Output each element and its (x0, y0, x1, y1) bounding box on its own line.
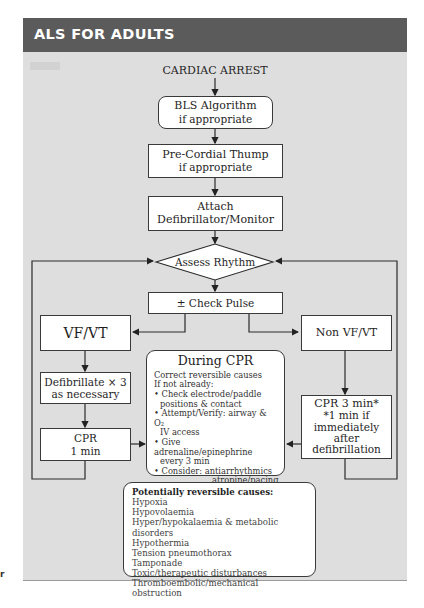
thump-sub: if appropriate (179, 161, 252, 173)
reversible-cause-item: Hypovolaemia (132, 507, 307, 517)
cpr1-line2: 1 min (70, 445, 100, 457)
reversible-cause-item: Hypoxia (132, 497, 307, 507)
reversible-cause-item: Hyper/hypokalaemia & metabolic disorders (132, 517, 307, 537)
start-label: CARDIAC ARREST (145, 64, 285, 77)
precordial-thump-box: Pre-Cordial Thump if appropriate (148, 144, 283, 178)
vf-vt-box: VF/VT (40, 315, 131, 351)
reversible-cause-item: Hypothermia (132, 538, 307, 548)
attach-line1: Attach (197, 201, 233, 214)
reversible-causes-box: Potentially reversible causes: Hypoxia H… (123, 482, 316, 577)
defib-line2: as necessary (51, 388, 119, 400)
reversible-cause-item: Tamponade (132, 558, 307, 568)
reversible-cause-item: Tension pneumothorax (132, 548, 307, 558)
non-vf-vt-label: Non VF/VT (316, 327, 377, 340)
assess-rhythm-label: Assess Rhythm (160, 256, 270, 268)
non-vf-vt-box: Non VF/VT (301, 315, 392, 351)
cpr-3min-box: CPR 3 min* *1 min if immediately after d… (301, 395, 392, 459)
attach-defibrillator-box: Attach Defibrillator/Monitor (148, 196, 283, 231)
reversible-cause-item: Thromboembolic/mechanical obstruction (132, 578, 307, 598)
check-pulse-label: ± Check Pulse (177, 297, 255, 309)
thump-title: Pre-Cordial Thump (162, 149, 268, 162)
cpr-1min-box: CPR 1 min (40, 428, 131, 461)
cpr3-line5: defibrillation (312, 444, 381, 455)
cpr3-line2: *1 min if (324, 410, 370, 421)
vf-vt-label: VF/VT (64, 325, 108, 341)
during-cpr-box: During CPR Correct reversible causes If … (146, 350, 285, 476)
defib-line1: Defibrillate × 3 (44, 376, 126, 388)
bls-algorithm-box: BLS Algorithm if appropriate (158, 96, 273, 129)
during-cpr-line: • Give adrenaline/epinephrine (154, 438, 277, 457)
attach-line2: Defibrillator/Monitor (157, 214, 274, 227)
cpr1-line1: CPR (74, 432, 97, 444)
bls-sub: if appropriate (179, 113, 252, 125)
bls-title: BLS Algorithm (174, 100, 256, 113)
check-pulse-box: ± Check Pulse (148, 292, 283, 314)
reversible-cause-item: Toxic/therapeutic disturbances (132, 568, 307, 578)
defibrillate-box: Defibrillate × 3 as necessary (40, 372, 131, 404)
margin-text-fragment: r (0, 569, 4, 579)
during-cpr-title: During CPR (154, 354, 277, 369)
reversible-causes-title: Potentially reversible causes: (132, 487, 307, 497)
during-cpr-line: • Attempt/Verify: airway & O₂ (154, 409, 277, 428)
